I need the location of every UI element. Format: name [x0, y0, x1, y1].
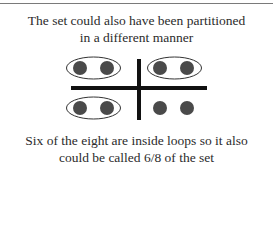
dot [153, 101, 167, 115]
dot [73, 61, 87, 75]
explanation-line-1: Six of the eight are inside loops so it … [0, 132, 273, 149]
dot [73, 101, 87, 115]
dot [180, 101, 194, 115]
dot [100, 101, 114, 115]
explanation-line-2: could be called 6/8 of the set [0, 149, 273, 166]
dot [153, 61, 167, 75]
dot [180, 61, 194, 75]
explanation-caption: Six of the eight are inside loops so it … [0, 132, 273, 166]
dot [100, 61, 114, 75]
vertical-divider-bar [137, 59, 141, 120]
